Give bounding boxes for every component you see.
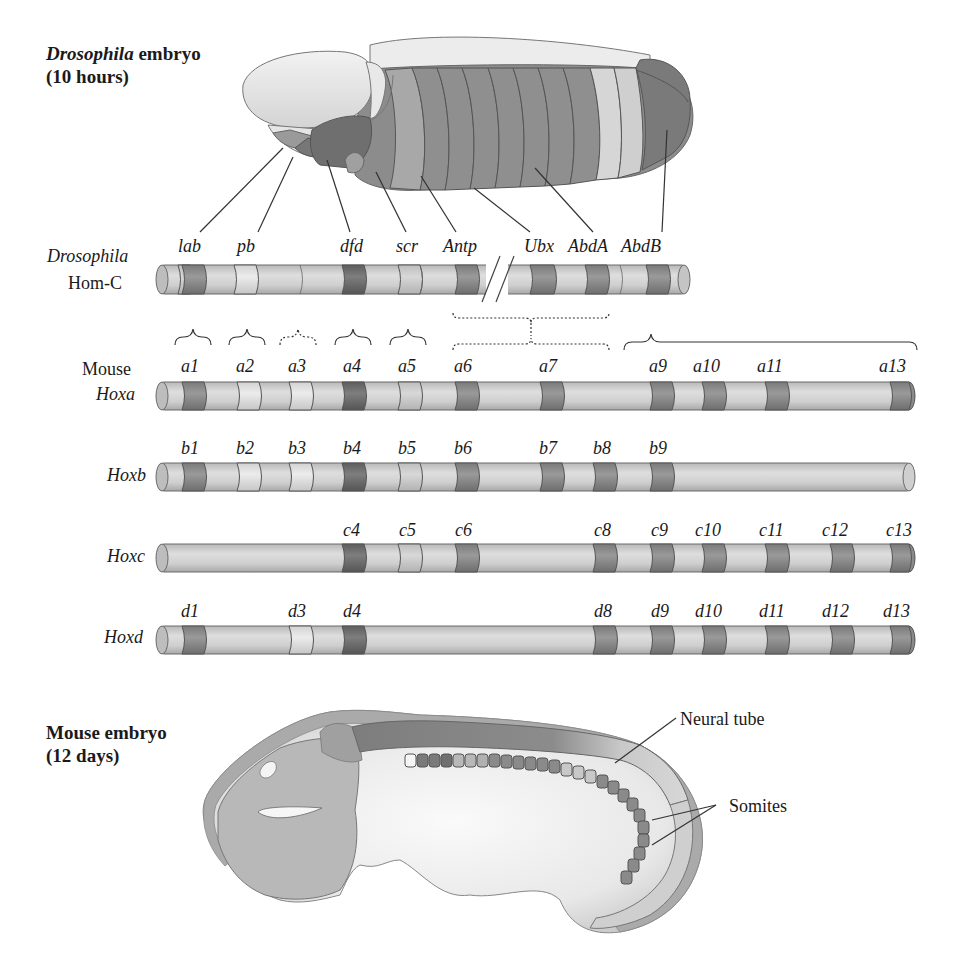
hoxa-gene-a11: a11 [757, 356, 783, 376]
hoxd-gene-d11: d11 [759, 601, 785, 621]
hoxc-gene-c6: c6 [455, 520, 472, 540]
homc-gene-lab: lab [178, 236, 201, 256]
hoxb-gene-b6: b6 [454, 438, 472, 458]
bracket-a2 [229, 329, 265, 345]
hoxa-gene-a13: a13 [879, 356, 906, 376]
mouse-embryo-illustration [203, 710, 702, 932]
hoxc-gene-c4: c4 [343, 520, 360, 540]
hoxc-cluster: Hoxc c4 c5 c6 c8 c9 c10 [106, 520, 915, 572]
bracket-abdb-paralogs [624, 334, 917, 350]
homc-gene-scr: scr [396, 236, 419, 256]
homc-gene-pb: pb [235, 236, 255, 256]
neural-tube-label: Neural tube [680, 709, 764, 729]
hoxd-gene-d3: d3 [288, 601, 306, 621]
hoxc-gene-c10: c10 [695, 520, 721, 540]
hoxd-gene-d1: d1 [181, 601, 199, 621]
hoxb-gene-b5: b5 [398, 438, 416, 458]
hoxc-gene-c11: c11 [759, 520, 784, 540]
bracket-a3 [280, 329, 316, 345]
mouse-label: Mouse [82, 359, 131, 379]
bracket-a4 [335, 329, 371, 345]
hoxc-gene-c12: c12 [822, 520, 848, 540]
hoxc-gene-c9: c9 [651, 520, 668, 540]
homology-brackets [175, 313, 917, 350]
hoxd-label: Hoxd [103, 627, 144, 647]
hoxb-gene-b9: b9 [649, 438, 667, 458]
hox-gene-diagram: Drosophila embryo (10 hours) Mouse embry… [0, 0, 958, 967]
hoxd-gene-d4: d4 [343, 601, 361, 621]
drosophila-embryo-illustration [243, 37, 693, 190]
hoxa-gene-a7: a7 [539, 356, 558, 376]
homc-label-cluster: Hom-C [68, 273, 122, 293]
hoxb-gene-b1: b1 [181, 438, 199, 458]
hoxb-gene-b8: b8 [593, 438, 611, 458]
homc-gene-ubx: Ubx [524, 236, 554, 256]
bracket-a1 [175, 329, 211, 345]
somites-label: Somites [729, 796, 787, 816]
homc-gene-antp: Antp [442, 236, 477, 256]
hoxa-gene-a6: a6 [454, 356, 472, 376]
hoxa-gene-a5: a5 [398, 356, 416, 376]
hoxb-gene-b2: b2 [236, 438, 254, 458]
hoxd-cluster: Hoxd d1 d3 d4 d8 d9 d10 [103, 601, 915, 654]
homc-gene-abdb: AbdB [620, 236, 661, 256]
hoxa-gene-a1: a1 [181, 356, 199, 376]
hoxd-gene-d8: d8 [594, 601, 612, 621]
homc-cluster: Drosophila Hom-C [46, 236, 690, 302]
hoxd-gene-d13: d13 [883, 601, 910, 621]
homc-gene-abda: AbdA [567, 236, 609, 256]
diagram-canvas: Drosophila Hom-C [0, 0, 958, 967]
hoxa-gene-a3: a3 [288, 356, 306, 376]
hoxa-cluster: Hoxa a1 a2 a3 a4 a5 [95, 356, 915, 410]
hoxd-gene-d9: d9 [651, 601, 669, 621]
hoxa-gene-a9: a9 [649, 356, 667, 376]
hoxa-gene-a4: a4 [343, 356, 361, 376]
bracket-antp-ubx-abda [453, 313, 609, 350]
hoxd-gene-d12: d12 [822, 601, 849, 621]
hoxc-gene-c8: c8 [594, 520, 611, 540]
hoxc-gene-c13: c13 [886, 520, 912, 540]
hoxc-gene-c5: c5 [399, 520, 416, 540]
hoxa-gene-a2: a2 [236, 356, 254, 376]
bracket-a5 [390, 329, 426, 345]
homc-gene-dfd: dfd [340, 236, 364, 256]
hoxa-gene-a10: a10 [693, 356, 720, 376]
hoxc-label: Hoxc [106, 546, 145, 566]
hoxb-gene-b4: b4 [343, 438, 361, 458]
hoxb-label: Hoxb [106, 465, 146, 485]
hoxa-label: Hoxa [95, 384, 135, 404]
hoxd-gene-d10: d10 [695, 601, 722, 621]
hoxb-gene-b3: b3 [288, 438, 306, 458]
homc-label-species: Drosophila [46, 246, 128, 266]
hoxb-gene-b7: b7 [539, 438, 558, 458]
hoxb-cluster: Hoxb b1 b2 b3 b4 b5 b6 [106, 438, 915, 491]
